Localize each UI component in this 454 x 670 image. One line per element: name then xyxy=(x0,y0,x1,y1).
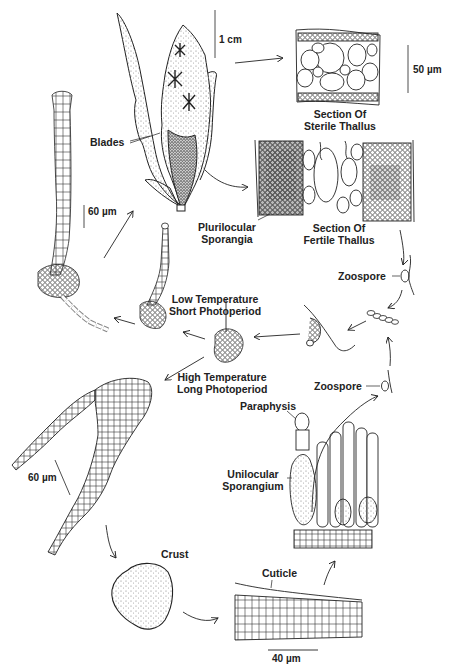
label-paraphysis: Paraphysis xyxy=(240,400,296,412)
scale-label-1cm: 1 cm xyxy=(219,34,242,45)
label-blades: Blades xyxy=(90,136,124,148)
label-high-temp-line2: Long Photoperiod xyxy=(177,383,267,395)
zoospore-upper-drawing xyxy=(401,255,414,295)
sterile-section-drawing xyxy=(296,29,380,105)
label-sterile-line1: Section Of xyxy=(290,108,390,120)
scale-label-50um: 50 µm xyxy=(413,64,442,75)
label-low-temperature: Low Temperature Short Photoperiod xyxy=(165,293,265,317)
label-high-temp-line1: High Temperature xyxy=(177,371,267,383)
label-fertile-section: Section Of Fertile Thallus xyxy=(294,222,384,246)
label-high-temperature: High Temperature Long Photoperiod xyxy=(177,371,267,395)
label-unilocular-line1: Unilocular xyxy=(219,468,287,480)
zoospore-lower-drawing xyxy=(382,370,393,393)
label-fertile-line2: Fertile Thallus xyxy=(294,234,384,246)
fertile-section-drawing xyxy=(255,140,414,222)
label-cuticle: Cuticle xyxy=(262,567,297,579)
label-low-temp-line2: Short Photoperiod xyxy=(165,305,265,317)
scale-label-60um-upper: 60 µm xyxy=(88,206,117,217)
life-cycle-diagram: Blades 1 cm Section Of Sterile Thallus 5… xyxy=(0,0,454,670)
label-fertile-line1: Section Of xyxy=(294,222,384,234)
coiled-filament-drawing xyxy=(304,305,355,351)
diagram-drawing xyxy=(0,0,454,670)
label-low-temp-line1: Low Temperature xyxy=(165,293,265,305)
scale-label-60um-lower: 60 µm xyxy=(28,472,57,483)
label-unilocular-sporangium: Unilocular Sporangium xyxy=(219,468,287,492)
crust-filament-drawing xyxy=(12,378,152,555)
scale-bar-60um-lower xyxy=(55,460,70,495)
label-zoospore-lower: Zoospore xyxy=(314,380,362,392)
scale-label-40um: 40 µm xyxy=(272,653,301,664)
cuticle-section-drawing xyxy=(235,583,362,640)
label-sterile-line2: Sterile Thallus xyxy=(290,120,390,132)
label-crust: Crust xyxy=(161,548,188,560)
germling-drawing xyxy=(367,311,399,325)
blades-drawing xyxy=(117,13,217,211)
label-unilocular-line2: Sporangium xyxy=(219,480,287,492)
label-zoospore-upper: Zoospore xyxy=(338,270,386,282)
unilocular-sporangium-drawing xyxy=(290,396,378,548)
label-plurilocular: Plurilocular Sporangia xyxy=(196,221,258,245)
label-sterile-section: Section Of Sterile Thallus xyxy=(290,108,390,132)
label-plurilocular-line1: Plurilocular xyxy=(196,221,258,233)
crust-drawing xyxy=(112,563,173,629)
label-plurilocular-line2: Sporangia xyxy=(196,233,258,245)
